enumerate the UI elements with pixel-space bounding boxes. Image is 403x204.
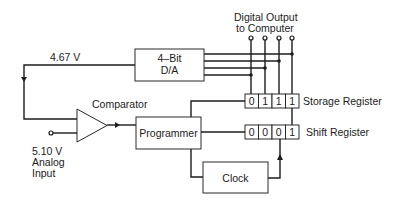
shift-register: 0 0 0 1 Shift Register xyxy=(245,125,370,139)
storage-register: 0 1 1 1 Storage Register xyxy=(245,94,382,108)
dac-label-line1: 4–Bit xyxy=(158,52,182,64)
storage-bit-3: 0 xyxy=(249,95,255,107)
feedback-voltage-label: 4.67 V xyxy=(50,51,80,63)
clock-arrow-icon xyxy=(277,154,283,160)
dac-block: 4–Bit D/A xyxy=(135,49,204,81)
programmer-to-storage-wire xyxy=(191,101,245,117)
analog-input-terminal xyxy=(49,131,53,135)
shift-bit-1: 0 xyxy=(276,126,282,138)
output-terminals xyxy=(249,36,294,40)
feedback-arrow-icon xyxy=(21,77,27,82)
analog-label-line3: Input xyxy=(32,167,55,179)
dac-label-line2: D/A xyxy=(161,64,179,76)
storage-register-label: Storage Register xyxy=(303,95,382,107)
bit-lines xyxy=(251,40,292,100)
shift-bit-2: 0 xyxy=(262,126,268,138)
shift-register-label: Shift Register xyxy=(306,126,370,138)
comparator-output-arrow-icon xyxy=(115,122,120,128)
shift-bit-3: 0 xyxy=(249,126,255,138)
clock-label: Clock xyxy=(222,172,249,184)
storage-bit-0: 1 xyxy=(289,95,295,107)
shift-bit-0: 1 xyxy=(289,126,295,138)
dac-input-lines xyxy=(204,52,294,77)
output-terminal-bit0 xyxy=(290,36,294,40)
output-terminal-bit3 xyxy=(249,36,253,40)
programmer-to-clock-wire xyxy=(191,149,203,177)
storage-bit-2: 1 xyxy=(262,95,268,107)
storage-bit-1: 1 xyxy=(276,95,282,107)
clock-block: Clock xyxy=(203,162,268,193)
comparator-label: Comparator xyxy=(92,98,148,110)
digital-output-label-line2: to Computer xyxy=(236,22,294,34)
adc-block-diagram: Digital Output to Computer 4–Bit D/A 4.6… xyxy=(0,0,403,204)
output-terminal-bit2 xyxy=(263,36,267,40)
output-terminal-bit1 xyxy=(277,36,281,40)
programmer-label: Programmer xyxy=(139,127,198,139)
programmer-block: Programmer xyxy=(136,117,201,149)
